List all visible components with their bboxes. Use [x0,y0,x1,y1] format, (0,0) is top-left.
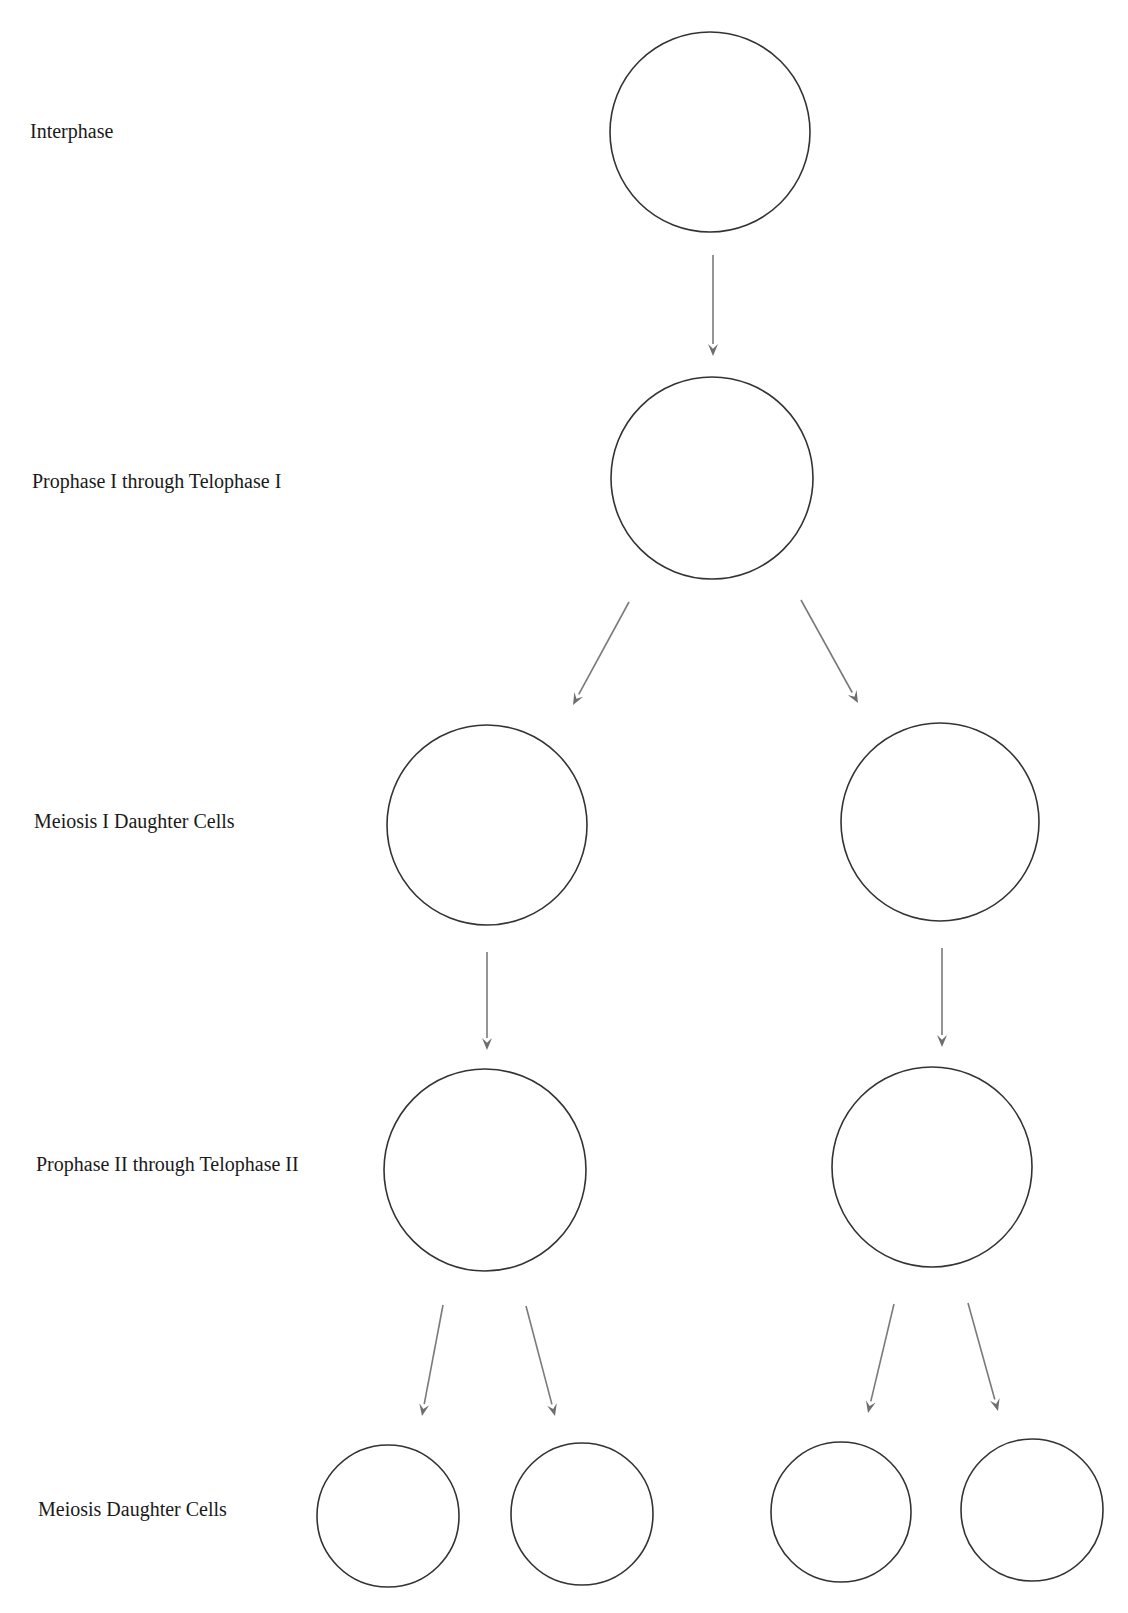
arrow-icon [419,1305,443,1416]
cell-circle-daughter-4 [961,1439,1103,1581]
arrow-icon [801,600,858,703]
cell-circle-daughter-1 [317,1445,459,1587]
cell-circle-meiosis-1-left [387,725,587,925]
arrow-icon [708,255,718,356]
cell-circle-prophase-2-left [384,1069,586,1271]
cells [317,32,1103,1587]
arrow-icon [526,1306,557,1416]
cell-circle-prophase-1 [611,377,813,579]
cell-circle-interphase [610,32,810,232]
meiosis-diagram [0,0,1128,1613]
cell-circle-meiosis-1-right [841,723,1039,921]
arrow-icon [573,602,629,705]
arrow-icon [968,1303,1000,1411]
arrows [419,255,999,1416]
arrow-icon [937,948,947,1047]
cell-circle-daughter-3 [771,1442,911,1582]
arrow-icon [866,1304,894,1413]
cell-circle-daughter-2 [511,1443,653,1585]
arrow-icon [482,952,492,1050]
cell-circle-prophase-2-right [832,1067,1032,1267]
